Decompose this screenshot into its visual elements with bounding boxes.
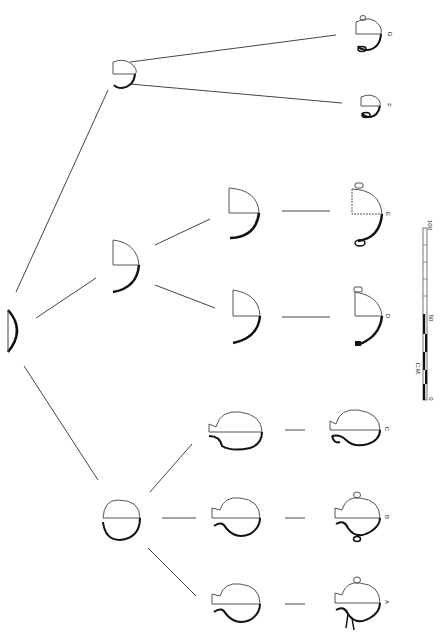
vessel-a-icon xyxy=(335,577,380,630)
vessel-c-icon xyxy=(330,410,380,446)
connector-mid-lower xyxy=(155,285,215,308)
connector-mid-upper xyxy=(155,219,210,245)
mid-lower-vessel-icon xyxy=(233,290,260,343)
scale-tick-50: 50 xyxy=(428,315,434,322)
root-vessel-icon xyxy=(8,310,17,352)
connector-top-g xyxy=(130,35,336,62)
vessel-label-f: F xyxy=(386,103,392,107)
scale-bar xyxy=(423,228,427,400)
connector-root-bottom xyxy=(24,366,98,480)
bottom-a-parent-vessel-icon xyxy=(212,584,260,622)
vessel-label-c: C xyxy=(384,427,390,431)
connector-root-top xyxy=(16,90,108,292)
scale-tick-0: 0 xyxy=(428,397,434,400)
vessel-label-e: E xyxy=(385,212,391,216)
connector-bottom-c xyxy=(150,444,192,492)
connector-bottom-a xyxy=(148,548,196,596)
bottom-c-parent-vessel-icon xyxy=(209,412,262,450)
vessel-label-a: A xyxy=(384,600,390,604)
vessel-e-icon xyxy=(352,183,382,246)
vessel-d-icon xyxy=(354,287,382,346)
vessel-label-b: B xyxy=(384,515,390,519)
vessel-label-g: G xyxy=(387,32,393,37)
scale-tick-100: 100 xyxy=(427,220,433,230)
connector-top-f xyxy=(130,84,342,103)
mid-branch-vessel-icon xyxy=(113,240,139,292)
bottom-b-parent-vessel-icon xyxy=(212,498,260,536)
scale-unit-label: C.M. xyxy=(415,363,421,376)
vessel-f-icon xyxy=(361,95,380,117)
vessel-g-icon xyxy=(356,16,381,52)
vessel-b-icon xyxy=(335,492,380,542)
typology-diagram xyxy=(0,0,445,634)
connector-root-mid xyxy=(36,278,96,318)
vessel-label-d: D xyxy=(385,314,391,318)
mid-upper-vessel-icon xyxy=(229,188,259,238)
bottom-branch-vessel-icon xyxy=(103,500,140,540)
